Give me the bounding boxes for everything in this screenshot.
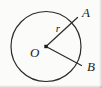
radius-line-to-a (46, 18, 78, 47)
label-center-o: O (30, 45, 40, 60)
circle-diagram-canvas: A B O r (0, 0, 102, 88)
center-point-marker (44, 45, 47, 48)
label-point-b: B (87, 59, 95, 74)
label-point-a: A (81, 5, 90, 20)
geometry-figure: A B O r (0, 0, 102, 88)
radius-line-to-b (46, 47, 82, 66)
label-radius-r: r (56, 22, 61, 34)
